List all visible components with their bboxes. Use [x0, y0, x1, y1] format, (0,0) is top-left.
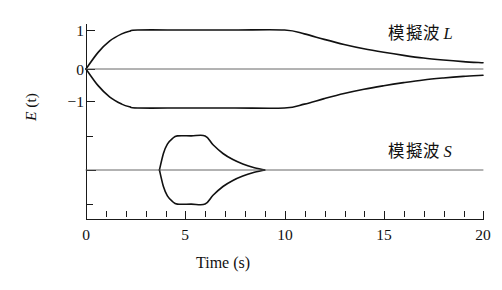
l-wave-lower-envelope — [86, 69, 483, 108]
figure-root: 1 0 −1 E (t) 0 5 10 15 20 Time (s) 模擬波L … — [0, 0, 502, 290]
s-wave-upper-envelope — [159, 135, 264, 170]
l-wave-upper-envelope — [86, 30, 483, 69]
trace-canvas — [0, 0, 502, 290]
s-wave-lower-envelope — [159, 170, 264, 205]
s-wave-envelope — [86, 135, 483, 205]
l-wave-envelope — [86, 30, 483, 109]
